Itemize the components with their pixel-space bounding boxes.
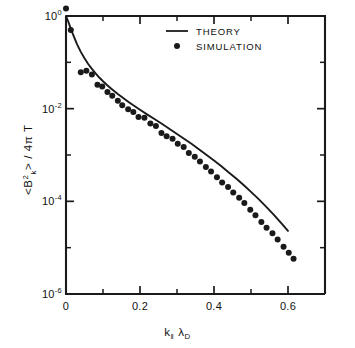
x-tick-label: 0.4 bbox=[194, 300, 234, 312]
simulation-point bbox=[109, 93, 115, 99]
simulation-point bbox=[68, 27, 74, 33]
simulation-point bbox=[214, 174, 220, 180]
simulation-point bbox=[286, 250, 292, 256]
simulation-point bbox=[252, 212, 258, 218]
simulation-point bbox=[99, 84, 105, 90]
simulation-point bbox=[203, 164, 209, 170]
simulation-point bbox=[115, 98, 121, 104]
simulation-point bbox=[141, 115, 147, 121]
y-tick-label: 10-6 bbox=[26, 286, 62, 300]
simulation-point bbox=[125, 106, 131, 112]
simulation-point bbox=[170, 136, 176, 142]
simulation-point bbox=[158, 130, 164, 136]
simulation-point bbox=[63, 6, 69, 12]
simulation-point bbox=[291, 256, 297, 262]
figure-panel: 10010-210-410-6 00.20.40.6 <B2k> / 4π T … bbox=[0, 0, 355, 348]
simulation-point bbox=[119, 102, 125, 108]
simulation-point bbox=[281, 244, 287, 250]
simulation-point bbox=[197, 159, 203, 165]
simulation-point bbox=[192, 154, 198, 160]
simulation-point bbox=[275, 237, 281, 243]
simulation-point bbox=[258, 219, 264, 225]
simulation-point bbox=[186, 150, 192, 156]
legend-label-simulation: SIMULATION bbox=[196, 41, 262, 52]
simulation-point bbox=[147, 120, 153, 126]
x-axis-label-text: k‖ λD bbox=[164, 326, 191, 338]
x-axis-label: k‖ λD bbox=[0, 322, 355, 341]
x-tick-label: 0.2 bbox=[120, 300, 160, 312]
y-tick-label: 100 bbox=[26, 8, 62, 22]
simulation-point bbox=[130, 109, 136, 115]
simulation-point bbox=[269, 230, 275, 236]
simulation-point bbox=[230, 190, 236, 196]
simulation-point bbox=[247, 207, 253, 213]
simulation-point bbox=[175, 141, 181, 147]
x-tick-label: 0 bbox=[46, 300, 86, 312]
simulation-point bbox=[219, 180, 225, 186]
simulation-point bbox=[153, 123, 159, 129]
x-tick-label: 0.6 bbox=[268, 300, 308, 312]
simulation-point bbox=[78, 69, 84, 75]
simulation-point bbox=[181, 144, 187, 150]
simulation-point bbox=[264, 225, 270, 231]
simulation-point bbox=[136, 114, 142, 120]
simulation-point bbox=[236, 195, 242, 201]
simulation-point bbox=[241, 200, 247, 206]
simulation-point bbox=[164, 133, 170, 139]
simulation-point bbox=[104, 89, 110, 95]
y-axis-label: <B2k> / 4π T bbox=[18, 85, 37, 235]
simulation-point bbox=[83, 68, 89, 74]
legend-dot-marker bbox=[174, 43, 180, 49]
simulation-point bbox=[225, 184, 231, 190]
simulation-point bbox=[208, 169, 214, 175]
simulation-point bbox=[89, 72, 95, 78]
y-axis-label-text: <B2k> / 4π T bbox=[22, 124, 34, 195]
legend-label-theory: THEORY bbox=[196, 26, 241, 37]
